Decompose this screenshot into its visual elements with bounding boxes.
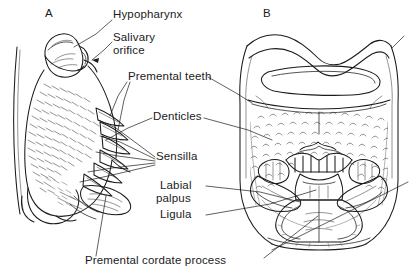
leader-hypopharynx: [74, 20, 112, 47]
label-ligula: Ligula: [160, 208, 192, 221]
figure-artwork: .o{fill:none;stroke:#1b1b1b;stroke-width…: [0, 0, 419, 278]
scientific-figure: .o{fill:none;stroke:#1b1b1b;stroke-width…: [0, 0, 419, 278]
label-salivary-orifice-line1: Salivary: [113, 31, 155, 44]
panel-letter-a: A: [45, 7, 53, 19]
label-premental-teeth: Premental teeth: [128, 70, 211, 83]
label-labial-palpus-line2: palpus: [156, 192, 191, 205]
leader-denticles-b: [204, 118, 272, 140]
label-salivary-orifice-line2: orifice: [113, 44, 145, 57]
leader-cordate-process-a: [96, 196, 106, 256]
label-denticles: Denticles: [153, 110, 202, 123]
leader-salivary-orifice: [92, 42, 112, 60]
label-hypopharynx: Hypopharynx: [113, 8, 182, 21]
panel-b-drawing: [240, 35, 398, 250]
label-labial-palpus-line1: Labial: [160, 179, 192, 192]
leader-edge-mark: [392, 36, 404, 48]
setae-texture-a: [28, 84, 99, 206]
label-premental-cordate-process: Premental cordate process: [85, 254, 226, 267]
label-sensilla: Sensilla: [156, 150, 197, 163]
premental-teeth-row-b: [286, 153, 352, 172]
panel-letter-b: B: [263, 7, 271, 19]
panel-a-drawing: [14, 34, 131, 224]
leader-cordate-process-b: [264, 216, 318, 258]
leader-ligula: [206, 190, 316, 215]
leader-premental-teeth-b: [208, 77, 252, 103]
leader-denticles-a: [106, 118, 152, 140]
